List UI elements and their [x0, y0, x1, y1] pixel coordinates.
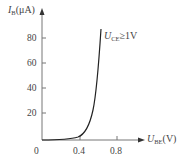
x-axis-label: UBE(V) — [147, 134, 176, 147]
x-tick-0-4: 0.4 — [73, 146, 85, 156]
ib-ube-curve — [42, 29, 101, 140]
origin-label: 0 — [34, 146, 39, 156]
x-ticks — [80, 136, 117, 140]
y-ticks — [42, 38, 46, 113]
x-axis-arrow-icon — [138, 138, 145, 143]
y-tick-40: 40 — [27, 83, 37, 93]
y-axis-arrow-icon — [40, 8, 45, 15]
y-tick-80: 80 — [27, 33, 37, 43]
y-tick-20: 20 — [27, 108, 37, 118]
curve-annotation: UCE≥1V — [104, 31, 137, 44]
y-tick-60: 60 — [27, 58, 37, 68]
x-tick-0-8: 0.8 — [110, 146, 122, 156]
y-axis-label: IB(μA) — [8, 5, 35, 18]
